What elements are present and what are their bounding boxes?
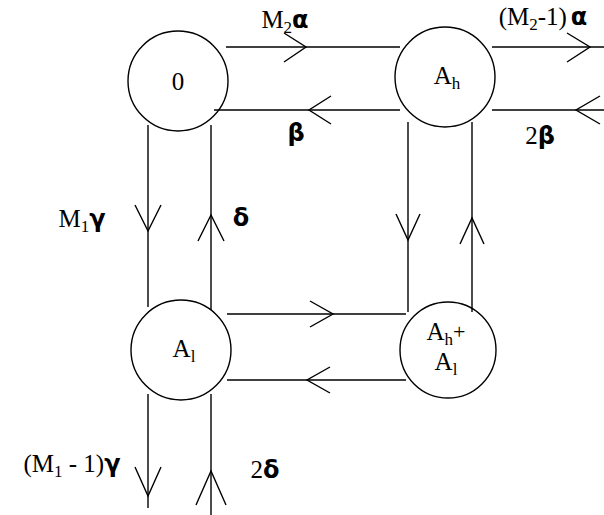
node-al-label: Al — [173, 336, 196, 366]
edge-label-beta: β — [287, 119, 304, 147]
edge-label-two-beta: 2β — [525, 122, 555, 150]
node-ahal-line2-sub: l — [453, 360, 458, 379]
edge-label-m1m1-sub: 1 — [54, 462, 63, 481]
node-ahal-label-line2: Al — [427, 349, 466, 379]
edge-label-m2m1-prefix: (M — [499, 3, 530, 30]
node-al-label-main: A — [173, 335, 191, 362]
edge-label-two-beta-greek: β — [538, 122, 555, 150]
diagram-canvas — [0, 0, 604, 515]
node-ahal-line1-main: A — [427, 318, 445, 345]
edge-label-delta: δ — [233, 204, 250, 232]
node-ah-label-main: A — [434, 62, 452, 89]
node-zero-label: 0 — [172, 69, 185, 95]
edge-label-beta-greek: β — [287, 119, 304, 147]
edge-label-m2m1-suffix: -1) — [538, 3, 567, 30]
edge-label-m2-minus-1-alpha: (M2-1)α — [499, 3, 588, 35]
edge-label-m2-alpha-sub: 2 — [284, 18, 293, 37]
edge-label-m2m1-greek: α — [571, 3, 588, 31]
node-ahal-line2-main: A — [435, 348, 453, 375]
edge-label-m1m1-greek: γ — [104, 450, 120, 478]
node-ahal-label: Ah+ Al — [427, 319, 466, 380]
edge-label-delta-greek: δ — [233, 204, 250, 232]
edge-label-m1-gamma-greek: γ — [89, 205, 105, 233]
edge-label-two-delta-greek: δ — [263, 456, 280, 484]
edge-label-m2-alpha-greek: α — [292, 6, 309, 34]
edge-label-m1m1-suffix: - 1) — [63, 450, 105, 477]
node-ahal-line1-sub: h — [445, 330, 454, 349]
edge-label-m1-gamma: M1γ — [58, 205, 105, 237]
edge-label-two-beta-main: 2 — [525, 122, 538, 149]
state-transition-diagram: 0 Ah Al Ah+ Al M2α β (M2-1)α 2β M1γ δ (M… — [0, 0, 604, 515]
node-ahal-line1-sup: + — [453, 319, 465, 344]
edge-label-m2m1-sub: 2 — [529, 15, 538, 34]
edge-label-m1-gamma-sub: 1 — [81, 217, 90, 236]
edge-label-m2-alpha: M2α — [261, 6, 308, 38]
edge-label-m1m1-prefix: (M — [23, 450, 54, 477]
node-ah-label: Ah — [434, 63, 461, 93]
edge-label-m1-gamma-main: M — [58, 205, 80, 232]
edge-label-m2-alpha-main: M — [261, 6, 283, 33]
edge-label-m1-minus-1-gamma: (M1 - 1)γ — [23, 450, 120, 482]
node-ah-label-sub: h — [452, 74, 461, 93]
edge-label-two-delta: 2δ — [251, 456, 280, 484]
node-ahal-label-line1: Ah+ — [427, 319, 466, 349]
node-al-label-sub: l — [191, 347, 196, 366]
edge-label-two-delta-main: 2 — [251, 456, 264, 483]
